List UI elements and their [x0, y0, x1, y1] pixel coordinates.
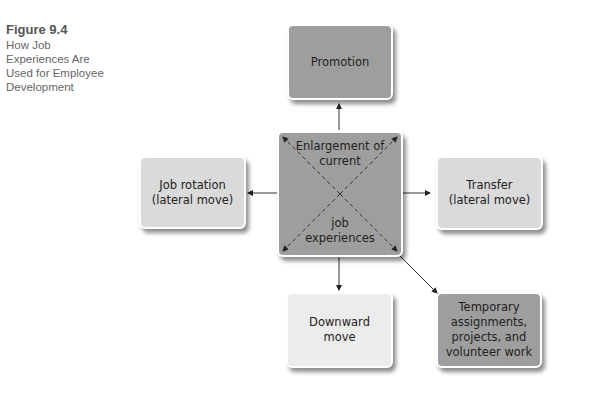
node-transfer: Transfer (lateral move)	[436, 156, 543, 230]
center-label-top: Enlargement of current	[279, 139, 401, 169]
center-node-job-experiences: Enlargement of current job experiences	[277, 131, 403, 257]
center-label-bottom: job experiences	[279, 216, 401, 246]
node-temporary-assignments: Temporary assignments, projects, and vol…	[436, 292, 542, 368]
node-job-rotation: Job rotation (lateral move)	[139, 156, 246, 229]
node-downward-move: Downward move	[286, 292, 393, 368]
node-promotion: Promotion	[287, 24, 393, 100]
